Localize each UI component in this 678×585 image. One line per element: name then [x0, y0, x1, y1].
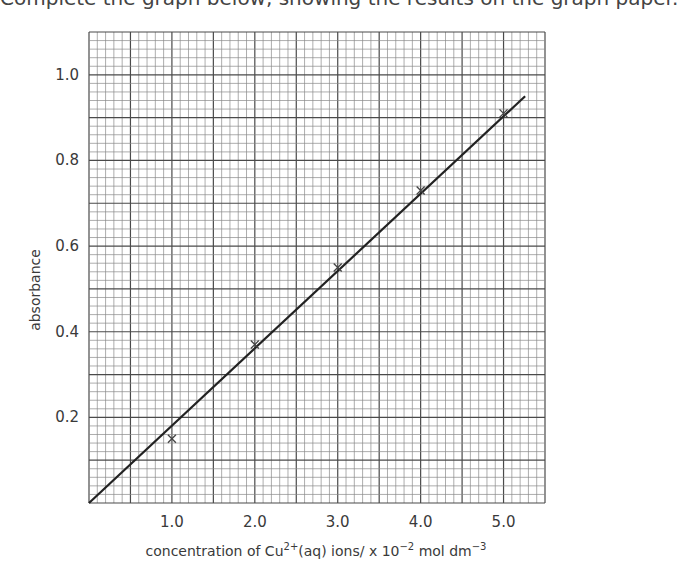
y-tick-label: 0.2 — [55, 408, 79, 426]
y-axis-label: absorbance — [27, 249, 43, 331]
best-fit-line — [89, 96, 525, 503]
y-tick-label: 0.8 — [55, 151, 79, 169]
y-tick-label: 0.4 — [55, 323, 79, 341]
y-tick-label: 0.6 — [55, 237, 79, 255]
y-axis-ticks: 0.20.40.60.81.0 — [55, 66, 79, 427]
y-tick-label: 1.0 — [55, 66, 79, 84]
x-tick-label: 3.0 — [326, 513, 350, 531]
x-tick-label: 1.0 — [160, 513, 184, 531]
x-tick-label: 2.0 — [243, 513, 267, 531]
x-axis-label: concentration of Cu2+(aq) ions/ x 10−2 m… — [146, 541, 487, 559]
x-axis-ticks: 1.02.03.04.05.0 — [160, 513, 515, 531]
fit-line — [89, 96, 525, 503]
x-tick-label: 5.0 — [492, 513, 516, 531]
graph-paper-grid — [89, 32, 545, 503]
x-tick-label: 4.0 — [409, 513, 433, 531]
